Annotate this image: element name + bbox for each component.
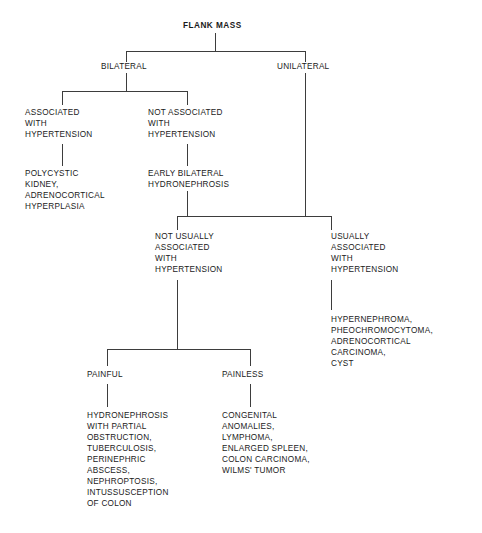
node-painful-causes: HYDRONEPHROSIS WITH PARTIAL OBSTRUCTION,… [87, 410, 169, 509]
connector-to-usually-htn [331, 216, 332, 230]
node-bilateral: BILATERAL [101, 61, 147, 72]
connector-bilateral-to-notassoc [187, 91, 188, 105]
node-bilateral-associated-hypertension: ASSOCIATED WITH HYPERTENSION [25, 107, 92, 140]
node-polycystic-kidney-causes: POLYCYSTIC KIDNEY, ADRENOCORTICAL HYPERP… [25, 168, 105, 212]
connector-not-usually-htn-trunk [177, 280, 178, 349]
connector-notassoc-htn-to-causes [187, 144, 188, 166]
node-usually-associated-hypertension: USUALLY ASSOCIATED WITH HYPERTENSION [331, 231, 398, 275]
node-flank-mass: FLANK MASS [183, 20, 242, 31]
node-not-usually-associated-hypertension: NOT USUALLY ASSOCIATED WITH HYPERTENSION [155, 231, 222, 275]
connector-unilateral-trunk [305, 73, 306, 216]
connector-to-painless [250, 349, 251, 366]
connector-to-not-usually-htn [177, 216, 178, 230]
node-early-bilateral-hydronephrosis: EARLY BILATERAL HYDRONEPHROSIS [148, 168, 229, 190]
node-hypernephroma-causes: HYPERNEPHROMA, PHEOCHROMOCYTOMA, ADRENOC… [331, 314, 433, 369]
connector-painful-to-causes [107, 384, 108, 407]
connector-pain-bar [107, 349, 251, 350]
connector-bilateral-to-assoc [62, 91, 63, 105]
connector-bilateral-stem [126, 73, 127, 91]
node-bilateral-not-associated-hypertension: NOT ASSOCIATED WITH HYPERTENSION [148, 107, 223, 140]
connector-usually-htn-to-causes [331, 280, 332, 310]
connector-root-to-unilateral [305, 51, 306, 62]
node-painful: PAINFUL [87, 369, 123, 380]
flank-mass-flowchart: FLANK MASS BILATERAL UNILATERAL ASSOCIAT… [0, 0, 482, 533]
connector-root-to-bilateral [126, 51, 127, 62]
connector-assoc-htn-to-causes [62, 144, 63, 166]
node-painless-causes: CONGENITAL ANOMALIES, LYMPHOMA, ENLARGED… [222, 410, 310, 476]
connector-painless-to-causes [250, 384, 251, 407]
connector-bilateral-bar [62, 91, 188, 92]
connector-unilateral-bar [177, 216, 332, 217]
connector-root-stem [215, 33, 216, 51]
connector-to-painful [107, 349, 108, 366]
connector-root-bar [126, 51, 306, 52]
connector-early-hydronephrosis-stem [187, 191, 188, 216]
node-unilateral: UNILATERAL [277, 61, 329, 72]
node-painless: PAINLESS [222, 369, 263, 380]
